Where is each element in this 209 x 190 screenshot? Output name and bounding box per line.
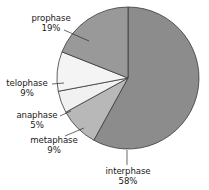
label-anaphase: anaphase 5%: [14, 110, 60, 130]
label-metaphase-name: metaphase: [29, 135, 79, 145]
label-interphase-pct: 58%: [103, 176, 153, 186]
label-interphase-name: interphase: [103, 166, 153, 176]
label-prophase-name: prophase: [30, 13, 72, 23]
label-telophase: telophase 9%: [4, 78, 50, 98]
label-prophase: prophase 19%: [30, 13, 72, 33]
label-interphase: interphase 58%: [103, 166, 153, 186]
pie-slices: [57, 7, 199, 149]
label-metaphase-pct: 9%: [29, 145, 79, 155]
label-telophase-name: telophase: [4, 78, 50, 88]
label-anaphase-name: anaphase: [14, 110, 60, 120]
label-prophase-pct: 19%: [30, 23, 72, 33]
label-metaphase: metaphase 9%: [29, 135, 79, 155]
label-telophase-pct: 9%: [4, 88, 50, 98]
label-anaphase-pct: 5%: [14, 120, 60, 130]
